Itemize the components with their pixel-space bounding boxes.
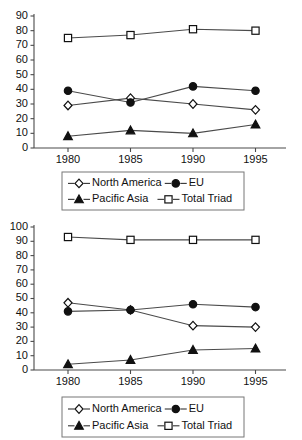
data-point	[189, 321, 197, 330]
series-line	[68, 86, 256, 102]
chart-bottom: 01020304050607080901001980198519901995No…	[0, 215, 302, 440]
data-point	[64, 308, 71, 315]
legend-label-pacific-asia: Pacific Asia	[92, 419, 149, 431]
y-tick-label: 60	[16, 277, 28, 289]
y-tick-label: 20	[16, 112, 28, 124]
y-tick-label: 10	[16, 126, 28, 138]
legend-label-north-america: North America	[92, 176, 163, 188]
data-point	[252, 236, 259, 243]
data-point	[251, 120, 260, 128]
legend-label-total-triad: Total Triad	[181, 192, 232, 204]
y-tick-label: 0	[22, 141, 28, 153]
series-north-america	[64, 298, 260, 331]
figure-page: 01020304050607080901980198519901995North…	[0, 0, 302, 440]
series-line	[68, 98, 256, 110]
x-tick-label: 1990	[181, 375, 205, 387]
data-point	[127, 236, 134, 243]
axes-top: 01020304050607080901980198519901995	[16, 9, 286, 165]
y-tick-label: 100	[10, 220, 28, 232]
series-line	[68, 304, 256, 311]
series-line	[68, 349, 256, 365]
legend-top: North AmericaEUPacific AsiaTotal Triad	[62, 172, 244, 210]
data-point	[189, 100, 197, 109]
series-line	[68, 125, 256, 137]
y-tick-label: 50	[16, 68, 28, 80]
data-point	[127, 306, 134, 313]
data-point	[252, 87, 259, 94]
data-point	[64, 34, 71, 41]
legend-label-total-triad: Total Triad	[181, 419, 232, 431]
series-total-triad	[64, 233, 259, 243]
x-tick-label: 1985	[118, 153, 142, 165]
legend-marker-eu-glyph	[172, 180, 179, 187]
data-point	[189, 301, 196, 308]
x-tick-label: 1995	[243, 375, 267, 387]
series-pacific-asia	[64, 120, 260, 140]
series-total-triad	[64, 26, 259, 42]
legend-bottom: North AmericaEUPacific AsiaTotal Triad	[62, 397, 244, 437]
chart-canvas-bottom: 01020304050607080901001980198519901995No…	[0, 215, 302, 440]
data-point	[189, 83, 196, 90]
chart-canvas-top: 01020304050607080901980198519901995North…	[0, 0, 302, 215]
data-point	[64, 87, 71, 94]
data-point	[126, 126, 135, 134]
y-tick-label: 10	[16, 349, 28, 361]
series-line	[68, 237, 256, 240]
data-point	[252, 323, 260, 332]
y-tick-label: 40	[16, 306, 28, 318]
x-tick-label: 1995	[243, 153, 267, 165]
data-point	[251, 344, 260, 352]
data-point	[64, 101, 72, 110]
data-point	[127, 99, 134, 106]
data-point	[127, 31, 134, 38]
y-tick-label: 80	[16, 24, 28, 36]
legend-label-north-america: North America	[92, 402, 163, 414]
legend-label-eu: EU	[189, 402, 204, 414]
axes-bottom: 01020304050607080901001980198519901995	[10, 220, 286, 387]
legend-marker-eu-glyph	[172, 405, 179, 412]
series-line	[68, 303, 256, 327]
legend-marker-total-triad-glyph	[165, 196, 172, 203]
legend-label-eu: EU	[189, 176, 204, 188]
legend-label-pacific-asia: Pacific Asia	[92, 192, 149, 204]
y-tick-label: 90	[16, 9, 28, 21]
x-tick-label: 1980	[56, 153, 80, 165]
series-north-america	[64, 94, 260, 114]
data-point	[252, 27, 259, 34]
y-tick-label: 40	[16, 82, 28, 94]
data-point	[189, 236, 196, 243]
y-tick-label: 50	[16, 291, 28, 303]
y-tick-label: 70	[16, 263, 28, 275]
data-point	[252, 106, 260, 115]
y-tick-label: 70	[16, 38, 28, 50]
x-tick-label: 1980	[56, 375, 80, 387]
series-pacific-asia	[64, 344, 260, 368]
y-tick-label: 30	[16, 320, 28, 332]
data-point	[189, 26, 196, 33]
y-tick-label: 60	[16, 53, 28, 65]
data-point	[252, 303, 259, 310]
y-tick-label: 30	[16, 97, 28, 109]
chart-top: 01020304050607080901980198519901995North…	[0, 0, 302, 215]
x-tick-label: 1990	[181, 153, 205, 165]
y-tick-label: 80	[16, 249, 28, 261]
x-tick-label: 1985	[118, 375, 142, 387]
series-eu	[64, 301, 259, 316]
series-line	[68, 29, 256, 38]
y-tick-label: 0	[22, 363, 28, 375]
y-tick-label: 20	[16, 334, 28, 346]
data-point	[64, 298, 72, 307]
data-point	[64, 233, 71, 240]
y-tick-label: 90	[16, 234, 28, 246]
legend-marker-total-triad-glyph	[165, 422, 172, 429]
